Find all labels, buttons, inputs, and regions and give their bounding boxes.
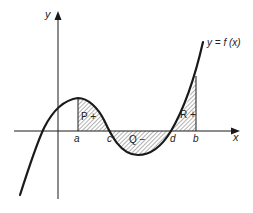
y-axis-arrow-icon xyxy=(55,11,62,20)
point-b-label: b xyxy=(193,133,199,144)
y-axis-label: y xyxy=(44,8,52,20)
curve-label: y = f (x) xyxy=(206,37,241,48)
point-d-label: d xyxy=(170,133,176,144)
point-a-label: a xyxy=(74,133,80,144)
integral-area-diagram: y x y = f (x) a c d b P + Q − R + xyxy=(0,0,253,213)
curve-f-of-x xyxy=(20,42,203,195)
point-c-label: c xyxy=(107,133,112,144)
region-q-label: Q − xyxy=(129,134,146,145)
region-p-label: P + xyxy=(81,111,96,122)
region-r-label: R + xyxy=(180,109,196,120)
x-axis-label: x xyxy=(232,131,239,143)
